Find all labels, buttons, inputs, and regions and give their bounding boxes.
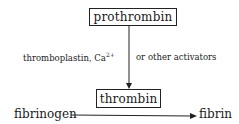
activator-label-right: or other activators [136,52,216,62]
activator-label-left: thromboplastin, Ca2+ [23,51,115,63]
thrombin-box: thrombin [96,89,161,108]
fibrin-label: fibrin [199,107,232,121]
thrombin-label: thrombin [100,92,158,106]
fibrinogen-label: fibrinogen [14,107,77,121]
prothrombin-label: prothrombin [94,10,173,24]
prothrombin-box: prothrombin [89,8,177,26]
